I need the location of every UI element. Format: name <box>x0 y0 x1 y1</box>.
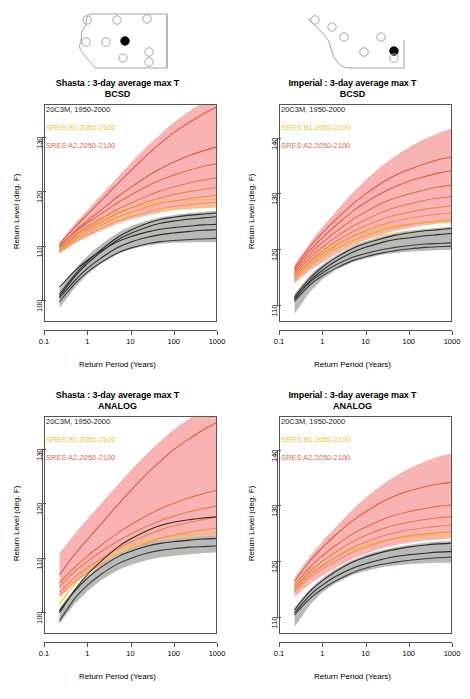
plot-area <box>279 416 452 634</box>
y-axis-tick-label: 130 <box>36 448 45 461</box>
y-axis-tick-label: 100 <box>36 612 45 625</box>
map-inset-row <box>0 0 470 76</box>
x-axis-tick-label: 1000 <box>197 649 237 658</box>
x-axis-tick-label: 1 <box>67 649 107 658</box>
y-axis-tick-label: 110 <box>36 245 45 257</box>
y-axis-label: Return Level (deg. F) <box>12 167 21 257</box>
y-axis-label: Return Level (deg. F) <box>12 479 21 569</box>
y-axis-tick-label: 110 <box>271 305 280 317</box>
plot-area <box>279 104 452 322</box>
x-axis-tick-label: 100 <box>154 337 194 346</box>
x-axis-tick-mark <box>87 643 88 647</box>
y-axis-tick-mark <box>277 617 281 618</box>
panel-shasta-bcsd: Shasta : 3-day average max T BCSD 20C3M,… <box>0 76 235 388</box>
y-axis-tick-mark <box>42 612 46 613</box>
x-axis-tick-label: 1000 <box>432 649 470 658</box>
figure-root: Shasta : 3-day average max T BCSD 20C3M,… <box>0 0 470 699</box>
x-axis-tick-mark <box>409 643 410 647</box>
x-axis-tick-mark <box>87 331 88 335</box>
x-axis-tick-mark <box>366 643 367 647</box>
x-axis-tick-mark <box>44 643 45 647</box>
x-axis-tick-mark <box>174 331 175 335</box>
x-axis-label: Return Period (Years) <box>0 672 235 681</box>
x-axis-label: Return Period (Years) <box>235 360 470 369</box>
x-axis-tick-mark <box>322 643 323 647</box>
x-axis-tick-mark <box>452 643 453 647</box>
y-axis-line <box>277 450 278 618</box>
x-axis-tick-mark <box>174 643 175 647</box>
imperial-map-inset <box>288 6 408 76</box>
x-axis-tick-label: 0.1 <box>24 649 64 658</box>
x-axis-tick-label: 10 <box>111 337 151 346</box>
y-axis-tick-label: 130 <box>271 505 280 518</box>
y-axis-tick-mark <box>277 305 281 306</box>
x-axis-tick-mark <box>217 331 218 335</box>
x-axis-tick-label: 1 <box>302 649 342 658</box>
y-axis-tick-label: 130 <box>36 136 45 149</box>
panel-subtitle: BCSD <box>235 89 470 99</box>
x-axis-tick-label: 0.1 <box>259 649 299 658</box>
x-axis-tick-label: 1000 <box>432 337 470 346</box>
x-axis-tick-mark <box>452 331 453 335</box>
x-axis-tick-label: 0.1 <box>24 337 64 346</box>
panel-title: Imperial : 3-day average max T <box>235 78 470 89</box>
y-axis-line <box>42 137 43 301</box>
y-axis-tick-mark <box>42 300 46 301</box>
x-axis-label: Return Period (Years) <box>235 672 470 681</box>
panel-title: Shasta : 3-day average max T <box>0 390 235 401</box>
x-axis-tick-label: 100 <box>389 337 429 346</box>
y-axis-tick-label: 120 <box>36 191 45 204</box>
shasta-map-inset <box>62 6 182 76</box>
x-axis-tick-mark <box>409 331 410 335</box>
x-axis-tick-label: 1 <box>67 337 107 346</box>
y-axis-tick-label: 130 <box>271 193 280 206</box>
x-axis-tick-mark <box>131 331 132 335</box>
panel-imperial-analog: Imperial : 3-day average max T ANALOG 20… <box>235 388 470 699</box>
x-axis-tick-label: 1000 <box>197 337 237 346</box>
plot-area <box>44 104 217 322</box>
y-axis-tick-label: 140 <box>271 137 280 150</box>
x-axis-tick-mark <box>217 643 218 647</box>
y-axis-tick-label: 100 <box>36 300 45 313</box>
y-axis-tick-label: 120 <box>271 561 280 574</box>
y-axis-tick-label: 110 <box>36 557 45 569</box>
y-axis-label: Return Level (deg. F) <box>247 479 256 569</box>
x-axis-tick-label: 1 <box>302 337 342 346</box>
x-axis-tick-label: 10 <box>346 337 386 346</box>
x-axis-tick-mark <box>131 643 132 647</box>
x-axis-tick-mark <box>279 643 280 647</box>
x-axis-tick-mark <box>322 331 323 335</box>
panel-subtitle: BCSD <box>0 89 235 99</box>
x-axis-tick-label: 10 <box>111 649 151 658</box>
y-axis-line <box>42 449 43 613</box>
panel-title: Shasta : 3-day average max T <box>0 78 235 89</box>
panel-subtitle: ANALOG <box>235 401 470 411</box>
x-axis-tick-label: 10 <box>346 649 386 658</box>
y-axis-tick-label: 120 <box>36 503 45 516</box>
plot-area <box>44 416 217 634</box>
y-axis-label: Return Level (deg. F) <box>247 167 256 257</box>
x-axis-tick-mark <box>44 331 45 335</box>
x-axis-tick-mark <box>366 331 367 335</box>
x-axis-tick-label: 0.1 <box>259 337 299 346</box>
panel-subtitle: ANALOG <box>0 401 235 411</box>
y-axis-tick-label: 120 <box>271 249 280 262</box>
y-axis-line <box>277 138 278 306</box>
panel-title: Imperial : 3-day average max T <box>235 390 470 401</box>
panel-shasta-analog: Shasta : 3-day average max T ANALOG 20C3… <box>0 388 235 699</box>
x-axis-tick-label: 100 <box>389 649 429 658</box>
x-axis-label: Return Period (Years) <box>0 360 235 369</box>
y-axis-tick-label: 140 <box>271 449 280 462</box>
x-axis-tick-mark <box>279 331 280 335</box>
panel-imperial-bcsd: Imperial : 3-day average max T BCSD 20C3… <box>235 76 470 388</box>
x-axis-tick-label: 100 <box>154 649 194 658</box>
y-axis-tick-label: 110 <box>271 617 280 629</box>
